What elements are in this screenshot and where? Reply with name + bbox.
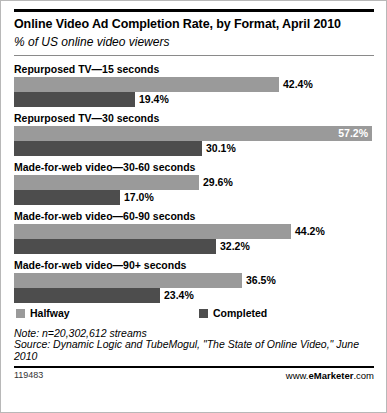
bar-halfway: [14, 77, 279, 92]
bar-value-label: 30.1%: [202, 141, 236, 156]
header-bottom-rule: [14, 55, 374, 56]
bar-row: 32.2%: [14, 239, 374, 254]
bar-value-label: 32.2%: [216, 239, 250, 254]
bar-group-label: Made-for-web video—90+ seconds: [14, 259, 374, 271]
bar-row: 29.6%: [14, 175, 374, 190]
chart-notes: Note: n=20,302,612 streams Source: Dynam…: [14, 328, 374, 363]
bar-value-label: 57.2%: [324, 126, 372, 141]
bar-completed: [14, 141, 202, 156]
bar-row: 36.5%: [14, 273, 374, 288]
legend-item-completed: Completed: [199, 308, 267, 319]
bar-value-label: 23.4%: [160, 288, 194, 303]
brand-prefix: www.: [286, 370, 309, 381]
bar-halfway: [14, 273, 242, 288]
bar-group: Made-for-web video—90+ seconds36.5%23.4%: [14, 259, 374, 303]
bar-group-label: Repurposed TV—15 seconds: [14, 63, 374, 75]
bar-halfway: [14, 224, 291, 239]
legend-label-completed: Completed: [213, 308, 267, 319]
bar-value-label: 17.0%: [120, 190, 154, 205]
header-top-rule: [14, 9, 374, 12]
bar-group-label: Made-for-web video—60-90 seconds: [14, 210, 374, 222]
bar-completed: [14, 92, 135, 107]
footer-rule: [14, 366, 374, 368]
brand-suffix: .com: [353, 370, 374, 381]
footer-brand: www.eMarketer.com: [286, 370, 374, 381]
chart-legend: Halfway Completed: [14, 308, 374, 322]
legend-label-halfway: Halfway: [30, 308, 70, 319]
bar-value-label: 29.6%: [199, 175, 233, 190]
bar-halfway: [14, 126, 372, 141]
bar-row: 44.2%: [14, 224, 374, 239]
bar-halfway: [14, 175, 199, 190]
bar-group: Repurposed TV—30 seconds57.2%30.1%: [14, 112, 374, 156]
bar-group-label: Made-for-web video—30-60 seconds: [14, 161, 374, 173]
chart-inner: Online Video Ad Completion Rate, by Form…: [14, 9, 374, 384]
bar-row: 30.1%: [14, 141, 374, 156]
chart-footer: 119483 www.eMarketer.com: [14, 370, 374, 384]
bar-row: 23.4%: [14, 288, 374, 303]
bar-completed: [14, 239, 216, 254]
page-title: Online Video Ad Completion Rate, by Form…: [14, 17, 374, 32]
bar-group: Made-for-web video—30-60 seconds29.6%17.…: [14, 161, 374, 205]
emarketer-chart-card: Online Video Ad Completion Rate, by Form…: [0, 0, 387, 413]
bar-group-label: Repurposed TV—30 seconds: [14, 112, 374, 124]
bar-group: Repurposed TV—15 seconds42.4%19.4%: [14, 63, 374, 107]
bar-value-label: 19.4%: [135, 92, 169, 107]
bar-completed: [14, 288, 160, 303]
chart-plot-area: Repurposed TV—15 seconds42.4%19.4%Repurp…: [14, 63, 374, 303]
legend-swatch-halfway-icon: [16, 309, 25, 318]
footer-chart-id: 119483: [14, 370, 43, 381]
bar-row: 17.0%: [14, 190, 374, 205]
bar-group: Made-for-web video—60-90 seconds44.2%32.…: [14, 210, 374, 254]
bar-value-label: 44.2%: [291, 224, 325, 239]
source-line: Source: Dynamic Logic and TubeMogul, "Th…: [14, 339, 374, 362]
legend-item-halfway: Halfway: [16, 308, 70, 319]
bar-row: 19.4%: [14, 92, 374, 107]
brand-name: eMarketer: [309, 370, 354, 381]
legend-swatch-completed-icon: [199, 309, 208, 318]
page-subtitle: % of US online video viewers: [14, 35, 374, 49]
bar-value-label: 36.5%: [242, 273, 276, 288]
bar-row: 42.4%: [14, 77, 374, 92]
bar-value-label: 42.4%: [279, 77, 313, 92]
bar-row: 57.2%: [14, 126, 374, 141]
bar-completed: [14, 190, 120, 205]
